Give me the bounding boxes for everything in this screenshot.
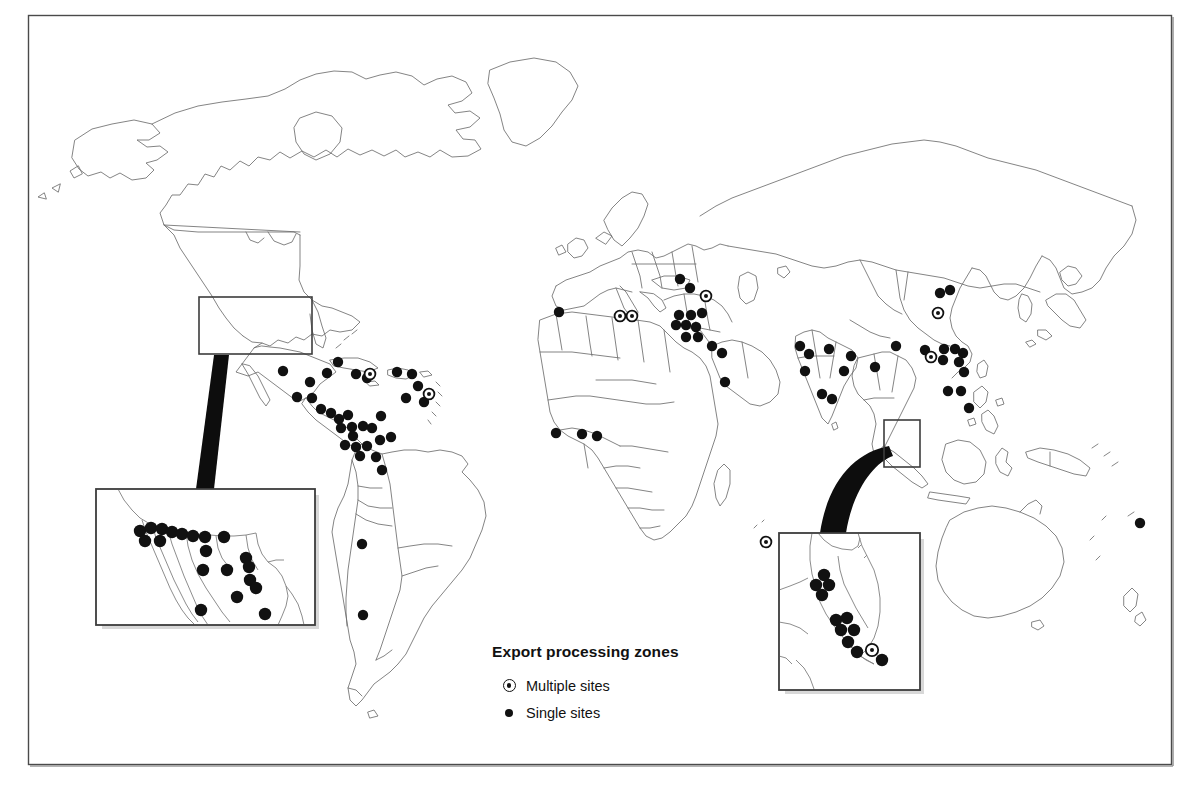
- single-site-marker: [577, 429, 587, 439]
- single-site-marker: [939, 344, 949, 354]
- single-site-marker: [720, 377, 730, 387]
- multiple-site-marker: [615, 311, 626, 322]
- single-site-marker: [187, 530, 199, 542]
- single-site-marker: [386, 432, 396, 442]
- single-site-marker: [343, 410, 353, 420]
- inset-mexico-border: [96, 489, 319, 629]
- single-site-marker: [278, 366, 288, 376]
- single-site-marker: [851, 646, 863, 658]
- single-site-marker: [322, 368, 332, 378]
- single-site-marker: [954, 357, 964, 367]
- inset-malaysia-singapore: [779, 533, 924, 694]
- single-site-marker: [681, 332, 691, 342]
- single-site-marker: [401, 393, 411, 403]
- multiple-site-marker: [926, 352, 937, 363]
- single-site-marker: [835, 624, 847, 636]
- caption-remnant: [30, 772, 670, 784]
- malaysia-inset-multiple-markers: [866, 644, 878, 656]
- single-site-marker: [671, 320, 681, 330]
- single-site-marker: [407, 369, 417, 379]
- single-site-marker: [358, 610, 368, 620]
- multiple-site-marker: [866, 644, 878, 656]
- single-site-marker: [817, 389, 827, 399]
- single-site-marker: [347, 422, 357, 432]
- single-site-marker: [1135, 518, 1145, 528]
- single-site-marker: [200, 545, 212, 557]
- single-site-marker: [842, 636, 854, 648]
- single-site-marker: [956, 386, 966, 396]
- single-site-marker: [139, 535, 151, 547]
- single-site-marker: [316, 404, 326, 414]
- single-site-marker: [351, 369, 361, 379]
- single-site-marker: [870, 362, 880, 372]
- single-site-marker: [824, 344, 834, 354]
- single-site-marker: [827, 394, 837, 404]
- single-site-marker: [592, 431, 602, 441]
- single-site-marker: [958, 348, 968, 358]
- single-site-marker: [685, 283, 695, 293]
- single-site-marker: [221, 564, 233, 576]
- multiple-site-marker: [761, 537, 772, 548]
- single-site-marker: [804, 349, 814, 359]
- figure-container: Export processing zones Multiple sites S…: [0, 0, 1201, 788]
- single-site-marker: [197, 564, 209, 576]
- multiple-site-marker: [424, 389, 435, 400]
- single-site-marker: [371, 452, 381, 462]
- multiple-site-marker: [627, 311, 638, 322]
- single-site-marker: [935, 288, 945, 298]
- single-site-marker: [823, 579, 835, 591]
- single-site-marker: [707, 341, 717, 351]
- single-site-marker: [848, 624, 860, 636]
- multiple-site-marker: [933, 308, 944, 319]
- single-site-marker: [392, 367, 402, 377]
- single-site-marker: [305, 377, 315, 387]
- single-site-marker: [334, 414, 344, 424]
- figure-frame: [29, 16, 1174, 767]
- single-site-marker: [686, 310, 696, 320]
- single-site-marker: [681, 320, 691, 330]
- single-site-marker: [340, 440, 350, 450]
- single-site-marker: [691, 322, 701, 332]
- single-site-marker: [176, 528, 188, 540]
- single-site-marker: [376, 411, 386, 421]
- single-site-marker: [964, 403, 974, 413]
- single-site-marker: [154, 535, 166, 547]
- single-site-marker: [816, 589, 828, 601]
- single-site-marker: [945, 285, 955, 295]
- single-site-marker: [250, 582, 262, 594]
- single-site-marker: [307, 393, 317, 403]
- single-site-marker: [839, 366, 849, 376]
- single-site-marker: [231, 591, 243, 603]
- single-site-marker: [551, 428, 561, 438]
- single-site-marker: [362, 441, 372, 451]
- single-site-marker: [943, 386, 953, 396]
- single-site-marker: [348, 431, 358, 441]
- single-site-marker: [355, 451, 365, 461]
- single-site-marker: [351, 442, 361, 452]
- single-site-marker: [357, 539, 367, 549]
- single-site-marker: [693, 332, 703, 342]
- single-site-marker: [243, 561, 255, 573]
- single-site-marker: [218, 531, 230, 543]
- single-site-marker: [199, 531, 211, 543]
- single-site-marker: [413, 381, 423, 391]
- single-site-marker: [841, 612, 853, 624]
- single-site-marker: [938, 355, 948, 365]
- single-site-marker: [333, 357, 343, 367]
- single-site-marker: [145, 522, 157, 534]
- single-site-marker: [377, 465, 387, 475]
- single-site-marker: [846, 351, 856, 361]
- single-site-marker: [876, 654, 888, 666]
- single-site-marker: [717, 348, 727, 358]
- single-site-marker: [795, 341, 805, 351]
- single-site-marker: [195, 604, 207, 616]
- single-site-marker: [358, 421, 368, 431]
- single-site-marker: [292, 392, 302, 402]
- single-site-marker: [891, 341, 901, 351]
- single-site-marker: [259, 608, 271, 620]
- single-site-marker: [336, 423, 346, 433]
- multiple-site-marker: [701, 291, 712, 302]
- single-site-marker: [554, 307, 564, 317]
- multiple-site-marker: [365, 369, 376, 380]
- single-site-marker: [674, 310, 684, 320]
